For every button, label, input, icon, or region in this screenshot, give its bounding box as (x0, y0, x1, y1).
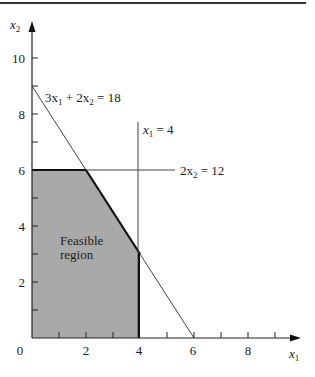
feasible-region-label-line1: Feasible (60, 233, 104, 248)
y-axis-arrow-icon (29, 21, 36, 32)
y-axis-label: x2 (9, 17, 20, 34)
x-tick-label: 8 (245, 343, 252, 358)
y-tick-label: 2 (19, 275, 26, 290)
x-axis-arrow-icon (290, 335, 301, 342)
origin-label: 0 (17, 343, 24, 358)
constraint-label-x1-4: x1 = 4 (142, 122, 174, 139)
y-tick-label: 6 (19, 163, 26, 178)
y-tick-label: 10 (12, 51, 25, 66)
constraint-label-2x2-12: 2x2 = 12 (180, 163, 224, 180)
x-tick-label: 6 (190, 343, 197, 358)
y-tick-label: 4 (19, 219, 26, 234)
x-tick-label: 2 (83, 343, 90, 358)
y-tick-label: 8 (19, 107, 26, 122)
x-axis-label: x1 (288, 346, 299, 363)
lp-feasible-region-chart: 0 2 4 6 8 2 4 6 8 10 x2 x1 3x1 + 2x2 = 1… (0, 0, 315, 377)
feasible-region-label-line2: region (60, 247, 94, 262)
x-tick-label: 4 (136, 343, 143, 358)
constraint-label-3x1-2x2-18: 3x1 + 2x2 = 18 (45, 90, 121, 107)
